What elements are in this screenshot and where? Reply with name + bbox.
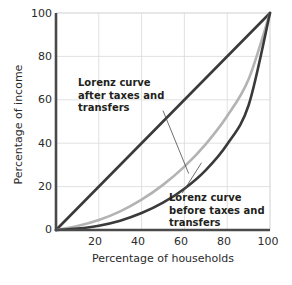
x-tick-label-60: 60 <box>169 235 193 248</box>
lorenz-curve-figure: 100 80 60 40 20 0 20 40 60 80 100 Percen… <box>0 0 292 285</box>
y-tick-label-20: 20 <box>20 180 52 193</box>
annotation-before-taxes: Lorenz curve before taxes and transfers <box>169 192 265 230</box>
annotation-after-taxes-line2: after taxes and <box>78 90 164 103</box>
y-axis-title: Percentage of income <box>12 55 25 195</box>
annotation-before-taxes-line2: before taxes and <box>169 205 265 218</box>
annotation-after-taxes-line1: Lorenz curve <box>78 77 164 90</box>
y-tick-label-40: 40 <box>20 137 52 150</box>
y-tick-label-0: 0 <box>20 223 52 236</box>
x-tick-label-80: 80 <box>212 235 236 248</box>
annotation-before-taxes-line1: Lorenz curve <box>169 192 265 205</box>
x-axis-title: Percentage of households <box>56 252 270 265</box>
y-tick-label-100: 100 <box>20 7 52 20</box>
x-tick-label-40: 40 <box>126 235 150 248</box>
annotation-after-taxes: Lorenz curve after taxes and transfers <box>78 77 164 115</box>
x-tick-label-20: 20 <box>83 235 107 248</box>
annotation-after-taxes-line3: transfers <box>78 102 164 115</box>
y-tick-label-80: 80 <box>20 50 52 63</box>
x-tick-label-100: 100 <box>255 235 281 248</box>
annotation-before-taxes-line3: transfers <box>169 217 265 230</box>
y-tick-label-60: 60 <box>20 93 52 106</box>
